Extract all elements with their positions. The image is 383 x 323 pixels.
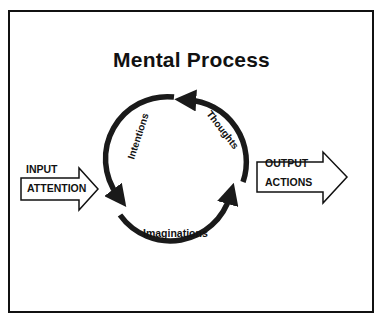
input-label: INPUT — [26, 163, 58, 175]
actions-label: ACTIONS — [265, 176, 312, 188]
intentions-label: Intentions — [125, 111, 150, 160]
output-label: OUTPUT — [265, 157, 308, 169]
attention-label: ATTENTION — [27, 182, 86, 194]
imaginations-label: Imaginations — [143, 227, 208, 239]
cycle-graphic: Intentions Thoughts — [0, 0, 383, 323]
